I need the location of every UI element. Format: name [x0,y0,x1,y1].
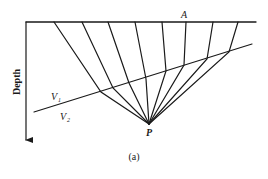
lower-layer-subscript: 2 [67,117,70,123]
ray-path [82,22,149,124]
figure-caption: (a) [128,151,139,163]
lower-layer-label: V 2 [60,111,70,123]
layer-interface-line [34,44,252,112]
ray-paths [54,22,238,124]
ray-path [54,22,149,124]
source-point-label: P [146,127,153,138]
surface-point-label: A [180,9,188,20]
upper-layer-subscript: 1 [58,97,61,103]
upper-layer-label: V 1 [51,91,61,103]
refraction-ray-diagram: A P V 1 V 2 Depth (a) [0,0,268,179]
diagram-canvas: A P V 1 V 2 Depth (a) [0,0,268,179]
ray-path [108,22,149,124]
ray-path [149,22,186,124]
depth-axis-label: Depth [11,69,22,96]
